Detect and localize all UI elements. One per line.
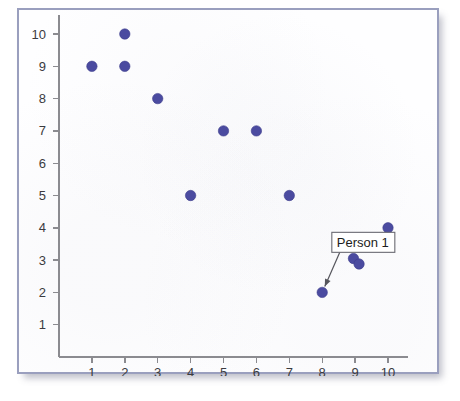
x-tick-7: 7 — [286, 357, 293, 376]
data-point — [120, 29, 130, 39]
y-tick-5: 5 — [39, 188, 59, 203]
y-tick-label: 6 — [39, 156, 46, 171]
data-point — [87, 61, 97, 71]
x-tick-label: 6 — [253, 365, 260, 376]
y-tick-label: 2 — [39, 285, 46, 300]
y-axis-ticks: 12345678910 — [32, 27, 59, 333]
data-point — [317, 287, 327, 297]
figure-frame: 12345678910 12345678910 Person 1 — [17, 8, 439, 374]
y-tick-2: 2 — [39, 285, 59, 300]
x-tick-5: 5 — [220, 357, 227, 376]
y-tick-label: 4 — [39, 220, 46, 235]
data-point — [153, 93, 163, 103]
x-tick-10: 10 — [381, 357, 395, 376]
x-tick-9: 9 — [351, 357, 358, 376]
x-tick-4: 4 — [187, 357, 194, 376]
figure-root: 12345678910 12345678910 Person 1 — [0, 0, 460, 401]
x-tick-label: 4 — [187, 365, 194, 376]
x-tick-label: 9 — [351, 365, 358, 376]
x-tick-label: 7 — [286, 365, 293, 376]
y-tick-label: 3 — [39, 253, 46, 268]
y-tick-label: 9 — [39, 59, 46, 74]
data-point — [383, 223, 393, 233]
x-tick-label: 2 — [121, 365, 128, 376]
data-point — [218, 126, 228, 136]
data-points-group — [87, 29, 393, 298]
data-point — [185, 190, 195, 200]
annotation-label: Person 1 — [337, 235, 389, 250]
x-tick-6: 6 — [253, 357, 260, 376]
y-tick-label: 5 — [39, 188, 46, 203]
y-tick-label: 8 — [39, 91, 46, 106]
y-tick-label: 10 — [32, 27, 46, 42]
x-tick-label: 8 — [319, 365, 326, 376]
x-tick-label: 5 — [220, 365, 227, 376]
y-tick-1: 1 — [39, 317, 59, 332]
y-tick-label: 1 — [39, 317, 46, 332]
data-point — [354, 259, 364, 269]
x-tick-label: 10 — [381, 365, 395, 376]
x-tick-label: 1 — [88, 365, 95, 376]
y-tick-10: 10 — [32, 27, 59, 42]
scatter-plot: 12345678910 12345678910 Person 1 — [19, 10, 441, 376]
x-tick-2: 2 — [121, 357, 128, 376]
y-tick-7: 7 — [39, 123, 59, 138]
data-point — [251, 126, 261, 136]
y-tick-9: 9 — [39, 59, 59, 74]
y-tick-label: 7 — [39, 123, 46, 138]
data-point — [120, 61, 130, 71]
x-tick-label: 3 — [154, 365, 161, 376]
y-tick-4: 4 — [39, 220, 59, 235]
annotation-arrowhead — [325, 278, 331, 286]
x-tick-8: 8 — [319, 357, 326, 376]
plot-canvas: 12345678910 12345678910 Person 1 — [19, 10, 441, 376]
y-tick-3: 3 — [39, 253, 59, 268]
data-point — [284, 190, 294, 200]
x-tick-1: 1 — [88, 357, 95, 376]
x-axis-ticks: 12345678910 — [88, 357, 395, 376]
y-tick-6: 6 — [39, 156, 59, 171]
x-tick-3: 3 — [154, 357, 161, 376]
y-tick-8: 8 — [39, 91, 59, 106]
axes-group — [59, 15, 408, 357]
